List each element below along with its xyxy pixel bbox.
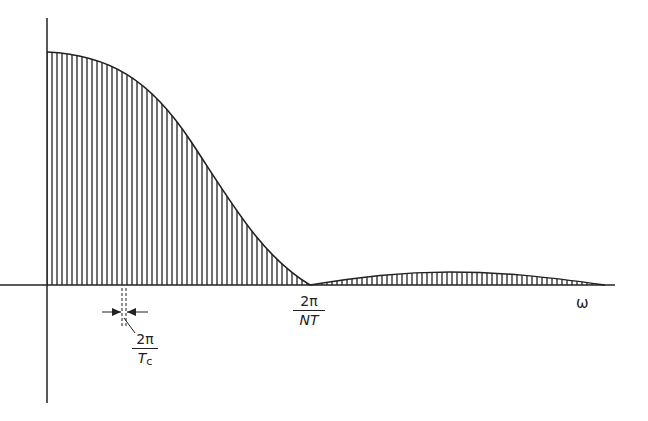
denominator-symbol: T — [138, 350, 147, 366]
side-lobe-spectral-lines — [308, 265, 608, 286]
x-axis-label: ω — [576, 294, 589, 312]
first-zero-denominator: NT — [299, 311, 318, 328]
line-spacing-label: 2π Tc — [132, 331, 158, 370]
spectrum-diagram — [0, 0, 648, 421]
line-spacing-numerator: 2π — [134, 331, 155, 348]
main-lobe-spectral-lines — [47, 40, 317, 286]
first-zero-numerator: 2π — [298, 293, 319, 310]
denominator-subscript: c — [146, 355, 152, 368]
first-zero-label: 2π NT — [293, 293, 325, 328]
line-spacing-indicator — [102, 288, 148, 333]
arrow-left-icon — [127, 308, 136, 316]
line-spacing-denominator: Tc — [138, 349, 153, 370]
arrow-right-icon — [112, 308, 121, 316]
